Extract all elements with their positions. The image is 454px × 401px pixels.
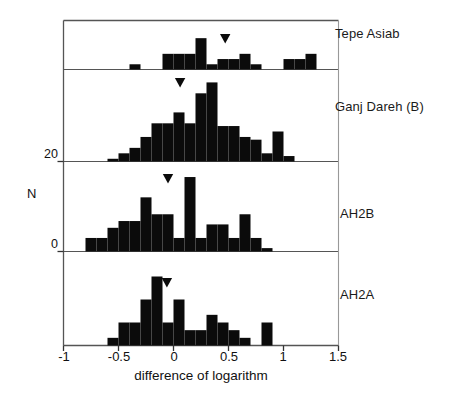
histogram-bar (119, 153, 130, 161)
y-axis-title: N (27, 186, 36, 201)
panel-label-ah2a: AH2A (340, 287, 374, 302)
histogram-bar (284, 59, 295, 69)
histogram-bar (108, 228, 119, 252)
histogram-bar (130, 148, 141, 162)
histogram-bar (141, 300, 152, 346)
histogram-bar (141, 137, 152, 162)
panel-label-ganj-dareh-b: Ganj Dareh (B) (335, 99, 424, 114)
histogram-bar (240, 338, 251, 346)
panel-label-tepe-asiab: Tepe Asiab (335, 26, 400, 41)
histogram-bar (152, 123, 163, 161)
histogram-bar (229, 330, 240, 345)
x-tick-label-neg0-5: -0.5 (99, 349, 139, 364)
histogram-bar (174, 238, 185, 252)
histogram-bar (207, 315, 218, 346)
panel-bars-2 (108, 82, 295, 161)
panel-bars-3 (86, 177, 273, 251)
histogram-bar (207, 224, 218, 251)
histogram-bar (185, 330, 196, 345)
histogram-bar (185, 177, 196, 251)
histogram-bar (97, 238, 108, 252)
histogram-bar (262, 153, 273, 161)
histogram-bar (218, 323, 229, 346)
axis-ticks (58, 162, 339, 352)
histogram-bar (163, 123, 174, 161)
histogram-bar (240, 214, 251, 251)
histogram-bars (86, 38, 317, 345)
x-tick-label-1: 1 (263, 349, 303, 364)
histogram-bar (86, 238, 97, 252)
histogram-bar (284, 156, 295, 161)
histogram-bar (229, 238, 240, 252)
histogram-bar (273, 132, 284, 162)
histogram-bar (262, 248, 273, 251)
histogram-figure: Tepe Asiab Ganj Dareh (B) AH2B AH2A 20 0… (0, 0, 454, 401)
y-tick-label-20: 20 (22, 147, 58, 161)
mean-marker-triangle-icon (175, 78, 185, 88)
histogram-bar (174, 54, 185, 70)
histogram-bar (218, 224, 229, 251)
histogram-bar (240, 54, 251, 70)
histogram-bar (207, 64, 218, 69)
histogram-bar (163, 214, 174, 251)
histogram-bar (229, 59, 240, 69)
histogram-bar (251, 238, 262, 252)
histogram-bar (218, 126, 229, 161)
panel-bars-1 (130, 38, 317, 69)
histogram-bar (152, 277, 163, 346)
histogram-bar (185, 54, 196, 70)
histogram-bar (251, 64, 262, 69)
plot-area (0, 0, 454, 401)
histogram-bar (262, 323, 273, 346)
histogram-bar (306, 54, 317, 70)
histogram-bar (218, 59, 229, 69)
histogram-bar (207, 82, 218, 161)
histogram-bar (174, 112, 185, 161)
x-tick-label-1-5: 1.5 (318, 349, 358, 364)
histogram-bar (141, 197, 152, 251)
histogram-bar (196, 93, 207, 161)
histogram-bar (108, 159, 119, 162)
histogram-bar (119, 221, 130, 251)
histogram-bar (108, 338, 119, 346)
histogram-bar (119, 323, 130, 346)
histogram-bar (163, 54, 174, 70)
histogram-bar (185, 123, 196, 161)
x-tick-label-0: 0 (154, 349, 194, 364)
y-tick-label-0: 0 (22, 237, 58, 251)
panel-label-ah2b: AH2B (340, 206, 374, 221)
x-tick-label-0-5: 0.5 (209, 349, 249, 364)
x-tick-label-neg1: -1 (44, 349, 84, 364)
histogram-bar (130, 64, 141, 69)
panel-bars-4 (108, 277, 273, 346)
histogram-bar (130, 323, 141, 346)
histogram-bar (130, 221, 141, 251)
histogram-bar (229, 126, 240, 161)
histogram-bar (196, 38, 207, 69)
x-axis-title: difference of logarithm (51, 368, 351, 383)
mean-marker-triangle-icon (163, 174, 173, 184)
histogram-bar (251, 140, 262, 162)
histogram-bar (240, 137, 251, 162)
histogram-bar (295, 59, 306, 69)
histogram-bar (196, 238, 207, 252)
histogram-bar (152, 214, 163, 251)
histogram-bar (174, 300, 185, 346)
histogram-bar (196, 330, 207, 345)
mean-marker-triangle-icon (162, 278, 172, 288)
mean-marker-triangle-icon (220, 34, 230, 44)
histogram-bar (163, 323, 174, 346)
